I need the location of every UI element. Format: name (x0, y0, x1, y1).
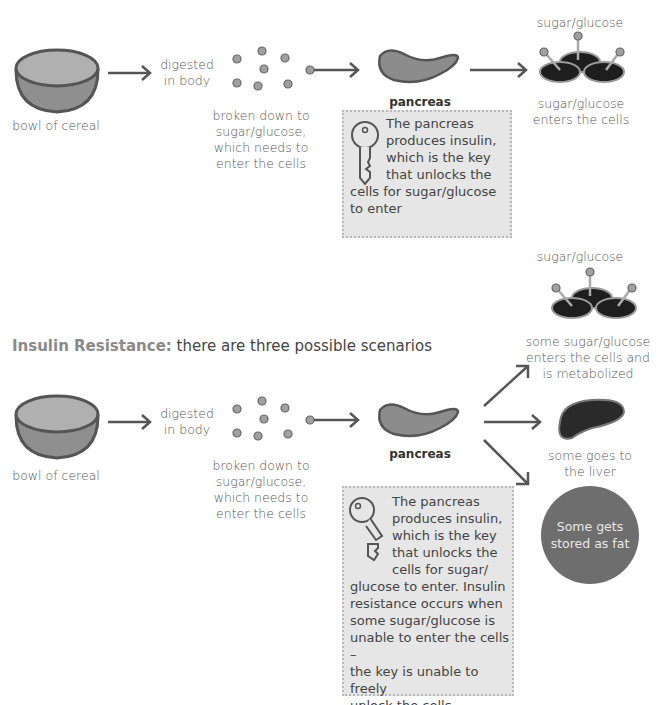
bowl-label: bowl of cereal (6, 468, 106, 484)
glucose-dots-icon (228, 44, 308, 94)
pancreas-icon (374, 46, 464, 86)
arrow-right-icon (108, 65, 153, 81)
broken-key-icon (348, 496, 388, 562)
bowl-label: bowl of cereal (6, 118, 106, 134)
key-icon (350, 120, 380, 186)
insulin-resistance-note-box: The pancreas produces insulin, which is … (342, 486, 514, 696)
cells-icon (538, 32, 638, 86)
glucose-arrow-icon (304, 62, 362, 78)
broken-down-label: broken down to sugar/glucose, which need… (208, 108, 314, 172)
cereal-bowl-icon (12, 390, 102, 462)
pancreas-label: pancreas (380, 446, 460, 462)
liver-icon (552, 398, 628, 442)
arrow-right-icon (108, 414, 153, 430)
cereal-bowl-icon (12, 44, 102, 116)
arrow-right-icon (484, 414, 544, 430)
arrow-down-right-icon (482, 438, 532, 488)
cells-icon (550, 268, 650, 322)
fat-circle: Some gets stored as fat (541, 486, 639, 584)
cells-bottom-label: some sugar/glucose enters the cells and … (520, 334, 656, 382)
glucose-arrow-icon (304, 412, 362, 428)
digested-label: digested in body (156, 57, 218, 89)
section-heading: Insulin Resistance: there are three poss… (12, 337, 432, 355)
arrow-right-icon (470, 62, 530, 78)
cells-bottom-label: sugar/glucose enters the cells (526, 96, 636, 128)
pancreas-icon (374, 400, 464, 440)
digested-label: digested in body (156, 406, 218, 438)
liver-label: some goes to the liver (540, 448, 640, 480)
glucose-dots-icon (228, 394, 308, 444)
broken-down-label: broken down to sugar/glucose, which need… (208, 458, 314, 522)
pancreas-label: pancreas (380, 94, 460, 110)
cells-top-label: sugar/glucose (530, 249, 630, 265)
insulin-note-box: The pancreas produces insulin, which is … (342, 110, 512, 238)
cells-top-label: sugar/glucose (530, 15, 630, 31)
